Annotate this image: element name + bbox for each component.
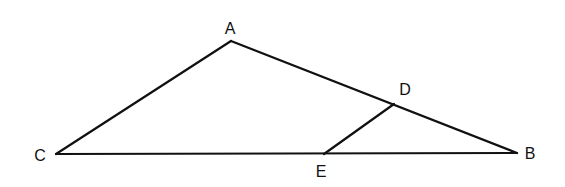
segment-ab	[231, 41, 517, 153]
label-b: B	[525, 145, 536, 162]
segment-de	[324, 104, 394, 154]
label-c: C	[34, 147, 46, 164]
segment-ac	[56, 41, 231, 154]
triangle-diagram: A D C E B	[0, 0, 565, 187]
segment-cb	[56, 153, 517, 154]
label-d: D	[399, 81, 411, 98]
label-e: E	[316, 163, 327, 180]
label-a: A	[225, 20, 236, 37]
